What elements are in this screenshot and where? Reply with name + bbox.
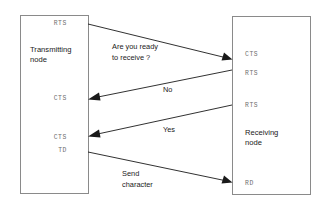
signal-label-tx-td: TD <box>58 147 67 154</box>
signal-label-rx-rd: RD <box>245 180 254 187</box>
arrow-head-yes <box>88 130 101 138</box>
arrow-line-are-you-ready <box>88 24 227 58</box>
message-label-yes: Yes <box>163 125 175 134</box>
signal-label-rx-rts-upper: RTS <box>245 70 258 77</box>
handshake-diagram: Transmitting node RTS CTS CTS TD Receivi… <box>0 0 326 208</box>
transmitting-node-box <box>21 16 89 194</box>
arrow-head-are-you-ready <box>222 53 233 61</box>
arrow-head-no <box>88 93 101 101</box>
receiving-node-title-line1: Receiving <box>245 128 278 137</box>
message-label-send-character-line1: Send <box>122 169 139 178</box>
message-label-are-you-ready-line2: to receive ? <box>112 53 150 62</box>
diagram-canvas: Transmitting node RTS CTS CTS TD Receivi… <box>0 0 326 208</box>
transmitting-node-title-line1: Transmitting <box>30 45 72 54</box>
signal-label-rx-cts: CTS <box>245 51 258 58</box>
arrow-head-send-character <box>222 176 233 184</box>
message-label-are-you-ready-line1: Are you ready <box>112 42 158 51</box>
signal-label-rx-rts-lower: RTS <box>245 102 258 109</box>
message-label-send-character-line2: character <box>122 180 153 189</box>
signal-label-tx-rts-top: RTS <box>54 20 67 27</box>
message-label-no: No <box>163 85 172 94</box>
signal-label-tx-cts-low: CTS <box>54 134 67 141</box>
transmitting-node-title-line2: node <box>30 55 47 64</box>
signal-label-tx-cts-mid: CTS <box>54 95 67 102</box>
arrow-line-send-character <box>88 152 227 181</box>
receiving-node-title-line2: node <box>245 138 262 147</box>
